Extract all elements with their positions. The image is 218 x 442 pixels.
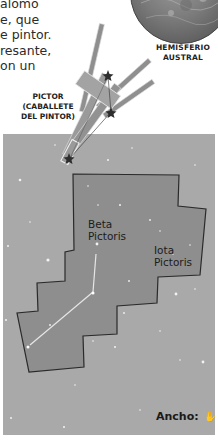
beta-pictoris-label: Beta Pictoris: [88, 218, 126, 242]
iota-pictoris-line2: Pictoris: [154, 256, 192, 268]
easel-icon: [61, 23, 155, 164]
width-indicator: Ancho: ✋: [156, 410, 216, 423]
beta-pictoris-line2: Pictoris: [88, 230, 126, 242]
constellation-boundary: [17, 174, 206, 372]
iota-pictoris-line1: Iota: [154, 244, 192, 256]
width-label-text: Ancho:: [156, 410, 199, 423]
hand-icon: ✋: [204, 411, 216, 422]
beta-pictoris-line1: Beta: [88, 218, 126, 230]
gamma-star-icon: [27, 346, 30, 349]
alpha-star-icon: [92, 292, 95, 295]
iota-pictoris-label: Iota Pictoris: [154, 244, 192, 268]
